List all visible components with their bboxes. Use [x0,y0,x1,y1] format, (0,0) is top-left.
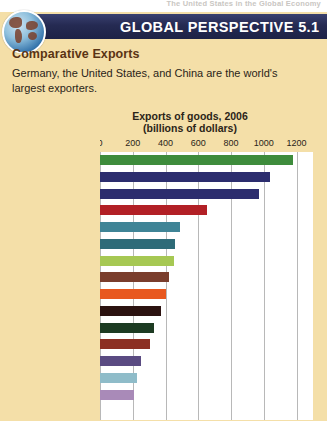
bar-china [100,189,259,199]
plot-right-margin [313,138,327,421]
bar-taiwan [100,373,137,383]
chart-title-line2: (billions of dollars) [100,122,280,134]
running-head-text: The United States in the Global Economy [167,0,322,8]
x-tick-800: 800 [224,138,239,148]
bar-united-states [100,172,270,182]
bar-germany [100,155,293,165]
bar-belgium [100,306,161,316]
chart-title: Exports of goods, 2006 (billions of doll… [100,110,280,134]
running-head: The United States in the Global Economy [0,0,327,12]
bar-netherlands [100,239,175,249]
bar-russia [100,339,150,349]
bar-italy [100,272,169,282]
bar-japan [100,205,207,215]
plot-left-margin [0,138,100,421]
bar-united-kingdom [100,256,174,266]
x-tick-400: 400 [158,138,173,148]
textbook-page: The United States in the Global Economy … [0,0,327,421]
bar-canada [100,289,166,299]
x-tick-600: 600 [191,138,206,148]
bar-mexico [100,356,141,366]
bar-france [100,222,180,232]
bar-saudi-arabia [100,390,134,400]
bar-south-korea [100,323,154,333]
feature-subtitle: Comparative Exports [12,47,140,61]
x-tick-200: 200 [125,138,140,148]
x-tick-1200: 1200 [287,138,307,148]
x-tick-1000: 1000 [254,138,274,148]
chart-title-line1: Exports of goods, 2006 [100,110,280,122]
feature-body: Germany, the United States, and China ar… [12,66,312,95]
banner-title: GLOBAL PERSPECTIVE 5.1 [120,19,320,35]
